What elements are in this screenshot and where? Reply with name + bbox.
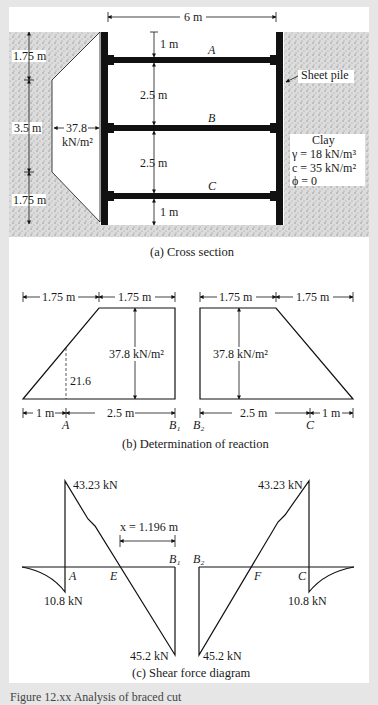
spacing-4: 1 m bbox=[160, 205, 179, 219]
strut-label-b: B bbox=[208, 111, 216, 125]
caption-a: (a) Cross section bbox=[150, 245, 235, 259]
shear-min-right: 45.2 kN bbox=[203, 649, 242, 663]
strut-label-c: C bbox=[208, 179, 217, 193]
shear-max-left: 43.23 kN bbox=[73, 478, 118, 492]
caption-b: (b) Determination of reaction bbox=[122, 437, 270, 451]
sheet-pile-left bbox=[101, 32, 108, 225]
shear-max-right: 43.23 kN bbox=[258, 478, 303, 492]
point-f: F bbox=[253, 569, 262, 583]
dim-bottom-left-2: 2.5 m bbox=[107, 406, 135, 420]
support-c: C bbox=[306, 418, 315, 432]
reaction-diagrams: 21.6 37.8 kN/m² 1.75 m 1.75 m 1 m 2.5 m … bbox=[23, 290, 353, 451]
point-a: A bbox=[68, 569, 77, 583]
soil-right bbox=[284, 32, 369, 228]
shear-curve-left bbox=[22, 481, 175, 655]
shear-end-right: 10.8 kN bbox=[288, 594, 327, 608]
soil-gamma: γ = 18 kN/m³ bbox=[291, 147, 356, 161]
pressure-label-right: 37.8 kN/m² bbox=[213, 347, 268, 361]
point-e: E bbox=[109, 569, 118, 583]
soil-friction-angle: ϕ = 0 bbox=[292, 174, 317, 188]
dim-top-left-1: 1.75 m bbox=[42, 290, 76, 304]
zone-height-top: 1.75 m bbox=[13, 49, 47, 63]
point-c: C bbox=[298, 569, 307, 583]
width-dimension: 6 m bbox=[184, 10, 203, 24]
support-a: A bbox=[61, 418, 70, 432]
cross-section: A B C 6 m 1 m 2.5 m 2.5 m 1 m 1.75 m 3 bbox=[9, 10, 369, 259]
figure-caption: Figure 12.xx Analysis of braced cut bbox=[10, 690, 181, 705]
zone-height-bottom: 1.75 m bbox=[13, 193, 47, 207]
spacing-2: 2.5 m bbox=[140, 88, 168, 102]
shear-curve-right bbox=[199, 481, 354, 655]
support-b2: B₂ bbox=[193, 418, 205, 432]
dim-bottom-left-1: 1 m bbox=[36, 406, 55, 420]
point-b1: B₁ bbox=[169, 552, 181, 566]
intermediate-value: 21.6 bbox=[70, 374, 91, 388]
spacing-3: 2.5 m bbox=[140, 156, 168, 170]
zone-height-middle: 3.5 m bbox=[14, 121, 42, 135]
support-b1: B₁ bbox=[169, 418, 181, 432]
pressure-unit: kN/m² bbox=[62, 135, 93, 149]
dim-top-left-2: 1.75 m bbox=[118, 290, 152, 304]
soil-cohesion: c = 35 kN/m² bbox=[292, 161, 356, 175]
soil-name: Clay bbox=[312, 133, 335, 147]
spacing-1: 1 m bbox=[160, 37, 179, 51]
pressure-value: 37.8 bbox=[66, 121, 87, 135]
dim-top-right-2: 1.75 m bbox=[296, 290, 330, 304]
x-distance-label: x = 1.196 m bbox=[120, 520, 179, 534]
pressure-label-left: 37.8 kN/m² bbox=[109, 347, 164, 361]
shear-force-diagrams: 43.23 kN 10.8 kN 45.2 kN x = 1.196 m A E… bbox=[22, 478, 354, 680]
sheet-pile-right bbox=[276, 32, 283, 225]
soil-bottom bbox=[9, 225, 369, 237]
shear-min-left: 45.2 kN bbox=[130, 649, 169, 663]
dim-bottom-right-2: 1 m bbox=[322, 406, 341, 420]
dim-bottom-right-1: 2.5 m bbox=[240, 406, 268, 420]
point-b2: B₂ bbox=[193, 552, 205, 566]
shear-end-left: 10.8 kN bbox=[44, 594, 83, 608]
dim-top-right-1: 1.75 m bbox=[219, 290, 253, 304]
sheet-pile-label: Sheet pile bbox=[301, 68, 349, 82]
caption-c: (c) Shear force diagram bbox=[132, 666, 251, 680]
strut-label-a: A bbox=[207, 43, 216, 57]
